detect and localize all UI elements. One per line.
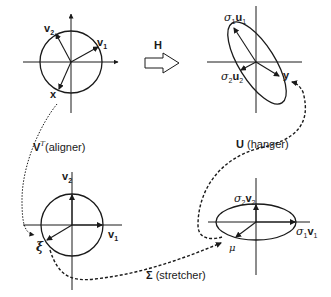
label-v2: v2	[44, 23, 54, 34]
label-v1: v1	[97, 37, 107, 48]
label-v1-bottom: v1	[108, 229, 118, 240]
label-sigma2-u2: σ2u2	[221, 71, 243, 82]
label-mu: μ	[229, 243, 236, 253]
label-sigma2-v2: σ2v2	[234, 193, 255, 204]
mu-vector	[236, 222, 256, 237]
label-x: x	[50, 89, 56, 100]
top-left-panel	[23, 14, 118, 113]
v1-vector	[71, 47, 98, 62]
label-h: H	[154, 40, 162, 51]
v2-vector	[56, 34, 71, 62]
label-stretcher: Σ (stretcher)	[146, 270, 206, 281]
label-sigma1-u1: σ1u1	[224, 12, 246, 23]
sigma1-u1-vector	[234, 28, 256, 62]
xi-vector	[47, 225, 72, 240]
bottom-right-panel	[208, 178, 310, 275]
label-hanger: U (hanger)	[236, 139, 289, 150]
y-vector	[256, 62, 279, 76]
label-xi: ξ	[36, 241, 43, 253]
label-y: y	[283, 70, 289, 81]
label-v2-bottom: v2	[62, 171, 72, 182]
aligner-path	[22, 104, 57, 235]
x-vector	[59, 62, 71, 89]
hanger-path	[198, 82, 305, 239]
sigma2-u2-vector	[241, 62, 256, 70]
label-aligner: VT(aligner)	[33, 142, 85, 153]
label-sigma1-v1: σ1v1	[296, 226, 317, 237]
hollow-right-arrow-icon	[145, 53, 179, 73]
top-right-panel	[207, 6, 302, 113]
